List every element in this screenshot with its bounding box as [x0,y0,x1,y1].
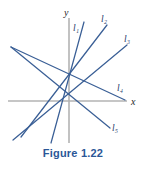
line-l2 [21,25,107,137]
line-l5 [11,47,110,128]
y-axis-label: y [63,7,69,18]
line-label-l1: l₁ [73,23,79,33]
figure-caption: Figure 1.22 [0,147,146,159]
line-label-l3: l₃ [124,34,130,44]
line-label-l5: l₅ [112,123,118,133]
x-axis-label: x [130,96,136,107]
line-l4 [11,47,125,100]
line-l1 [51,22,84,143]
figure-1-22: y x l₁ l₂ l₃ l₄ l₅ Figure 1.22 [0,0,146,172]
line-label-l2: l₂ [101,14,108,24]
coordinate-plot: y x l₁ l₂ l₃ l₄ l₅ [0,0,146,145]
line-label-l4: l₄ [117,83,123,93]
